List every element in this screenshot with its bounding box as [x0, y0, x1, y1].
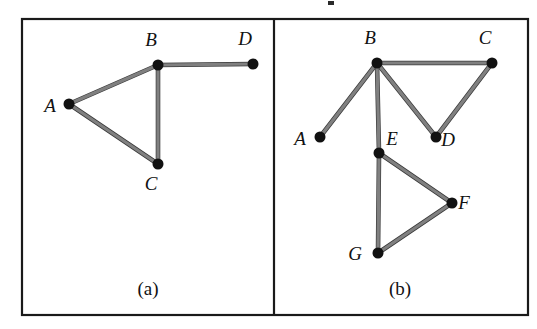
edge-B-E	[377, 63, 379, 153]
node-D	[248, 59, 259, 70]
panel-b-caption: (b)	[389, 278, 411, 300]
node-C	[487, 58, 498, 69]
node-C	[153, 159, 164, 170]
node-label-C: C	[145, 173, 158, 194]
node-B	[153, 60, 164, 71]
edge-line	[378, 153, 379, 253]
edge-line	[158, 64, 253, 65]
node-A	[64, 99, 75, 110]
node-label-G: G	[348, 243, 362, 264]
node-label-B: B	[364, 27, 376, 48]
node-label-D: D	[237, 28, 252, 49]
node-A	[315, 132, 326, 143]
figure-container: ABCD(a)ABCDEFG(b)	[0, 0, 537, 329]
node-label-F: F	[457, 192, 470, 213]
edge-B-D	[158, 64, 253, 65]
node-label-C: C	[479, 27, 492, 48]
node-E	[374, 148, 385, 159]
panel-a-caption: (a)	[137, 278, 158, 300]
node-label-A: A	[42, 95, 56, 116]
node-label-D: D	[440, 129, 455, 150]
node-G	[373, 248, 384, 259]
node-B	[372, 58, 383, 69]
graph-figure-svg: ABCD(a)ABCDEFG(b)	[0, 0, 537, 329]
node-D	[431, 132, 442, 143]
edge-line	[377, 63, 379, 153]
node-label-B: B	[145, 29, 157, 50]
node-F	[447, 198, 458, 209]
edge-E-G	[378, 153, 379, 253]
clipped-glyph-fragment	[328, 1, 334, 5]
node-label-A: A	[292, 128, 306, 149]
node-label-E: E	[385, 128, 398, 149]
